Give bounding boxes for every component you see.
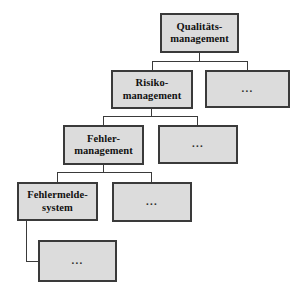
node-qualitaetsmanagement[interactable]: Qualitäts- management	[160, 13, 239, 53]
node-fehlermanagement[interactable]: Fehler- management	[63, 125, 144, 165]
edge-fehlermeldesystem-drop	[26, 221, 27, 262]
edge-to-level3-more	[151, 172, 152, 182]
hierarchy-diagram: Qualitäts- management Risiko- management…	[0, 0, 299, 302]
edge-level0-bus	[152, 61, 248, 62]
edge-to-risikomanagement	[152, 61, 153, 70]
node-level3-more[interactable]: ...	[112, 182, 192, 222]
edge-level2-bus	[57, 172, 152, 173]
edge-level1-bus	[103, 116, 198, 117]
node-level4-more[interactable]: ...	[38, 240, 117, 282]
node-fehlermeldesystem[interactable]: Fehlermelde- system	[17, 182, 98, 221]
edge-to-fehlermanagement	[103, 116, 104, 125]
node-level1-more[interactable]: ...	[205, 70, 290, 108]
node-risikomanagement[interactable]: Risiko- management	[111, 70, 193, 109]
node-level2-more[interactable]: ...	[158, 125, 238, 164]
edge-to-level1-more	[247, 61, 248, 70]
edge-to-fehlermeldesystem	[57, 172, 58, 182]
edge-to-level2-more	[197, 116, 198, 125]
